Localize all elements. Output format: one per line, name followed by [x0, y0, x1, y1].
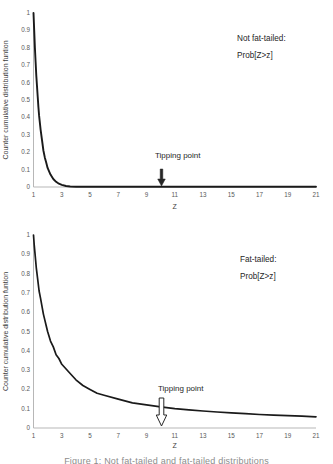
x-tick-label: 15 — [228, 191, 236, 198]
x-tick-label: 7 — [116, 191, 120, 198]
x-tick-label: 5 — [88, 191, 92, 198]
y-tick-label: 0.2 — [21, 385, 30, 392]
annotation-line1: Fat-tailed: — [240, 255, 276, 264]
y-axis-title: Counter cumulative distribution funtion — [2, 272, 9, 391]
chart-fat-tailed: 10.90.80.70.60.50.40.30.20.1013579111315… — [2, 231, 320, 449]
annotation-line2: Prob[Z>z] — [237, 51, 273, 60]
figure-canvas: 10.90.80.70.60.50.40.30.20.1013579111315… — [0, 0, 333, 464]
annotation-line1: Not fat-tailed: — [237, 34, 286, 43]
y-tick-label: 0.7 — [21, 61, 30, 68]
x-tick-label: 13 — [199, 432, 207, 439]
tipping-point-label: Tipping point — [155, 151, 201, 160]
y-tick-label: 0.6 — [21, 79, 30, 86]
y-tick-label: 0.7 — [21, 289, 30, 296]
y-tick-label: 0.8 — [21, 270, 30, 277]
chart-not-fat-tailed: 10.90.80.70.60.50.40.30.20.1013579111315… — [2, 9, 320, 210]
x-tick-label: 11 — [171, 191, 178, 198]
tipping-point-arrow-hollow-icon — [156, 398, 167, 426]
x-tick-label: 19 — [284, 432, 292, 439]
y-tick-label: 0.1 — [21, 405, 30, 412]
figure-page: 10.90.80.70.60.50.40.30.20.1013579111315… — [0, 0, 333, 464]
y-tick-label: 0 — [26, 424, 30, 431]
x-tick-label: 11 — [171, 432, 178, 439]
y-tick-label: 0.2 — [21, 148, 30, 155]
tipping-point-label: Tipping point — [158, 384, 204, 393]
x-tick-label: 19 — [284, 191, 292, 198]
y-tick-label: 0.8 — [21, 44, 30, 51]
x-tick-label: 9 — [145, 432, 149, 439]
y-tick-label: 0.4 — [21, 347, 30, 354]
y-tick-label: 0.9 — [21, 250, 30, 257]
y-tick-label: 0.9 — [21, 26, 30, 33]
x-tick-label: 9 — [145, 191, 149, 198]
x-tick-label: 5 — [88, 432, 92, 439]
x-tick-label: 21 — [312, 191, 320, 198]
x-tick-label: 7 — [116, 432, 120, 439]
x-tick-label: 17 — [256, 432, 264, 439]
x-tick-label: 17 — [256, 191, 264, 198]
y-tick-label: 1 — [26, 231, 30, 238]
y-tick-label: 0.3 — [21, 366, 30, 373]
y-tick-label: 0.5 — [21, 328, 30, 335]
x-tick-label: 1 — [32, 432, 36, 439]
x-tick-label: 15 — [228, 432, 236, 439]
y-tick-label: 0 — [26, 183, 30, 190]
y-tick-label: 0.6 — [21, 308, 30, 315]
y-tick-label: 0.1 — [21, 166, 30, 173]
x-axis-title: Z — [173, 203, 178, 210]
y-tick-label: 0.4 — [21, 113, 30, 120]
tipping-point-arrow-filled-icon — [158, 169, 166, 186]
x-tick-label: 1 — [32, 191, 36, 198]
y-axis-title: Counter cumulative distribution funtion — [2, 40, 9, 159]
y-tick-label: 0.3 — [21, 131, 30, 138]
x-tick-label: 3 — [60, 191, 64, 198]
x-tick-label: 21 — [312, 432, 320, 439]
x-tick-label: 3 — [60, 432, 64, 439]
figure-caption: Figure 1: Not fat-tailed and fat-tailed … — [0, 455, 333, 464]
annotation-line2: Prob[Z>z] — [240, 272, 276, 281]
y-tick-label: 0.5 — [21, 96, 30, 103]
y-tick-label: 1 — [26, 9, 30, 16]
x-tick-label: 13 — [199, 191, 207, 198]
x-axis-title: Z — [173, 442, 178, 449]
